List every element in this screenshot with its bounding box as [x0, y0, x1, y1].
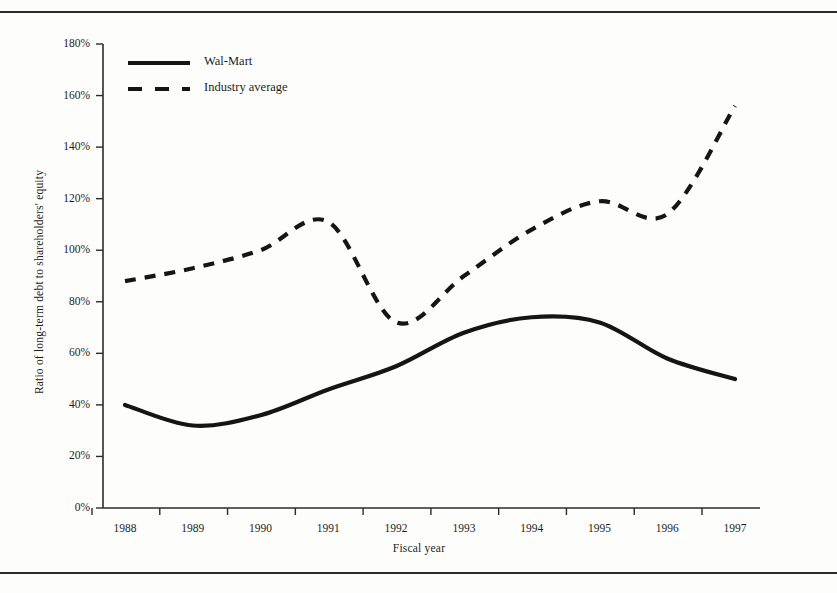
y-tick-label: 160%	[38, 90, 90, 102]
x-tick-label: 1990	[231, 523, 291, 535]
figure-page: 0%20%40%60%80%100%120%140%160%180% 19881…	[0, 0, 837, 593]
chart-legend: Wal-Mart Industry average	[128, 52, 368, 104]
legend-swatch-dashed-icon	[128, 87, 190, 91]
line-chart-svg	[0, 14, 837, 570]
y-tick-label: 180%	[38, 38, 90, 50]
page-bottom-rule	[0, 572, 837, 574]
x-tick-label: 1994	[502, 523, 562, 535]
x-tick-label: 1995	[569, 523, 629, 535]
plot-area: 0%20%40%60%80%100%120%140%160%180% 19881…	[0, 14, 837, 570]
x-tick-label: 1989	[163, 523, 223, 535]
x-tick-marks	[92, 508, 702, 515]
legend-label-wal-mart: Wal-Mart	[204, 54, 252, 69]
y-tick-label: 20%	[38, 450, 90, 462]
chart-figure: 0%20%40%60%80%100%120%140%160%180% 19881…	[0, 14, 837, 570]
legend-item-wal-mart: Wal-Mart	[128, 52, 368, 78]
x-tick-label: 1991	[298, 523, 358, 535]
legend-label-industry-average: Industry average	[204, 80, 288, 95]
y-tick-label: 40%	[38, 399, 90, 411]
series-line-wal-mart	[125, 316, 735, 426]
y-tick-label: 80%	[38, 296, 90, 308]
x-axis-title: Fiscal year	[103, 542, 735, 554]
x-tick-label: 1988	[95, 523, 155, 535]
legend-item-industry-average: Industry average	[128, 78, 368, 104]
y-tick-label: 140%	[38, 141, 90, 153]
y-tick-label: 60%	[38, 347, 90, 359]
x-tick-label: 1993	[434, 523, 494, 535]
page-top-rule	[0, 11, 837, 13]
y-tick-label: 0%	[38, 502, 90, 514]
y-tick-marks	[96, 44, 103, 508]
x-tick-label: 1992	[366, 523, 426, 535]
series-line-industry-average	[125, 106, 735, 324]
y-tick-label: 100%	[38, 244, 90, 256]
legend-swatch-solid-icon	[128, 61, 190, 65]
axis-lines	[103, 44, 760, 508]
y-tick-label: 120%	[38, 193, 90, 205]
x-tick-label: 1997	[705, 523, 765, 535]
x-tick-label: 1996	[637, 523, 697, 535]
y-axis-title: Ratio of long-term debt to shareholders'…	[33, 92, 45, 472]
